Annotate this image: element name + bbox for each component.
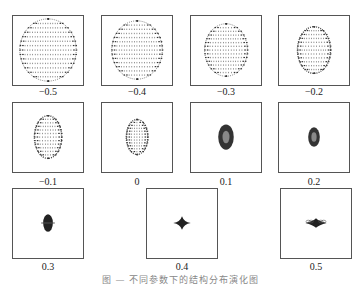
ellipsoid-point-cloud-icon bbox=[102, 103, 172, 172]
plot-panel bbox=[278, 15, 350, 86]
plot-panel bbox=[12, 188, 84, 259]
panel-label: 0.5 bbox=[280, 261, 352, 273]
plot-panel bbox=[101, 15, 173, 86]
figure-caption: 图 — 不同参数下的结构分布演化图 bbox=[0, 273, 361, 286]
panel-label: −0.4 bbox=[101, 86, 173, 98]
ellipsoid-point-cloud-icon bbox=[102, 16, 172, 85]
panel-label: 0.1 bbox=[190, 176, 262, 188]
plot-panel bbox=[280, 188, 352, 259]
ellipsoid-point-cloud-icon bbox=[281, 189, 351, 258]
plot-panel bbox=[146, 188, 218, 259]
ellipsoid-point-cloud-icon bbox=[13, 103, 83, 172]
plot-panel bbox=[190, 15, 262, 86]
ellipsoid-point-cloud-icon bbox=[13, 189, 83, 258]
plot-panel bbox=[190, 102, 262, 173]
plot-panel bbox=[12, 102, 84, 173]
panel-label: −0.1 bbox=[12, 176, 84, 188]
ellipsoid-point-cloud-icon bbox=[191, 16, 261, 85]
panel-label: 0.2 bbox=[278, 176, 350, 188]
plot-panel bbox=[101, 102, 173, 173]
plot-panel bbox=[278, 102, 350, 173]
ellipsoid-point-cloud-icon bbox=[279, 103, 349, 172]
panel-label: −0.3 bbox=[190, 86, 262, 98]
panel-label: 0.3 bbox=[12, 261, 84, 273]
ellipsoid-point-cloud-icon bbox=[13, 16, 83, 85]
plot-panel bbox=[12, 15, 84, 86]
panel-label: −0.5 bbox=[12, 86, 84, 98]
ellipsoid-point-cloud-icon bbox=[191, 103, 261, 172]
panel-label: 0.4 bbox=[146, 261, 218, 273]
ellipsoid-point-cloud-icon bbox=[279, 16, 349, 85]
panel-label: 0 bbox=[101, 176, 173, 188]
ellipsoid-point-cloud-icon bbox=[147, 189, 217, 258]
panel-label: −0.2 bbox=[278, 86, 350, 98]
